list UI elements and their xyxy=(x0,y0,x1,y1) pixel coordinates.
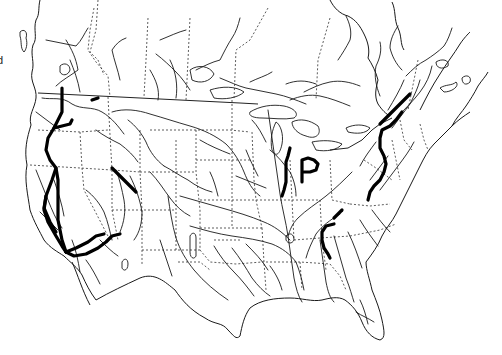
rivers xyxy=(36,16,452,324)
great-lakes xyxy=(190,67,370,155)
inland-lakes xyxy=(60,64,294,270)
route-appalachian-northeast xyxy=(368,112,402,200)
north-america-map xyxy=(0,0,502,355)
edge-label-text: d xyxy=(0,54,3,66)
highlighted-routes xyxy=(44,88,410,258)
route-montana-short xyxy=(92,98,98,100)
route-great-lakes-west xyxy=(282,148,290,196)
route-p-shaped-michigan xyxy=(302,158,318,182)
coastline xyxy=(20,0,488,340)
map-canvas: d xyxy=(0,0,502,355)
route-california-central-valley xyxy=(44,128,66,252)
